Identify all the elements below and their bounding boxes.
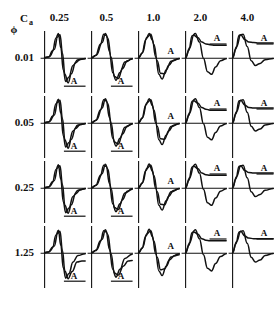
column-header-2: 1.0 (146, 11, 160, 23)
annotation-label-A: A (118, 76, 125, 86)
annotation-label-A: A (214, 98, 221, 108)
row-variable-label: ϕ (11, 23, 18, 35)
panel-r1-c0: A (41, 96, 86, 158)
curve-primary (139, 164, 180, 210)
annotation-label-A: A (168, 241, 175, 251)
annotation-label-A: A (214, 228, 221, 238)
panel-r2-c4: A (229, 161, 274, 223)
row-label-0: 0.01 (15, 51, 34, 63)
curve-primary (139, 229, 180, 275)
column-header-0: 0.25 (50, 11, 70, 23)
panel-r1-c4: A (229, 96, 274, 158)
col-variable-subscript: a (29, 18, 33, 27)
annotation-label-A: A (214, 163, 221, 173)
panel-r3-c0: A (41, 226, 86, 288)
panel-r0-c0: A (41, 31, 86, 93)
panel-r3-c1: A (88, 226, 133, 288)
curve-primary (139, 34, 180, 80)
column-header-1: 0.5 (99, 11, 113, 23)
annotation-label-A: A (214, 33, 221, 43)
curve-A (45, 166, 86, 213)
annotation-label-A: A (71, 141, 78, 151)
annotation-label-A: A (261, 163, 268, 173)
row-label-1: 0.05 (15, 116, 35, 128)
panel-r1-c3: A (182, 96, 227, 158)
waveform-grid-figure: Caϕ0.250.51.02.04.00.010.050.251.25AAAAA… (0, 0, 277, 326)
panel-r1-c2: A (135, 96, 180, 158)
figure-svg: Caϕ0.250.51.02.04.00.010.050.251.25AAAAA… (0, 0, 277, 326)
panel-r0-c2: A (135, 31, 180, 93)
annotation-label-A: A (261, 228, 268, 238)
annotation-label-A: A (168, 111, 175, 121)
row-label-3: 1.25 (15, 246, 35, 258)
annotation-label-A: A (118, 271, 125, 281)
panel-r2-c2: A (135, 161, 180, 223)
curve-primary (139, 99, 180, 145)
annotation-label-A: A (71, 271, 78, 281)
panel-r3-c3: A (182, 226, 227, 288)
column-header-4: 4.0 (240, 11, 254, 23)
annotation-label-A: A (168, 46, 175, 56)
panel-r3-c4: A (229, 226, 274, 288)
annotation-label-A: A (168, 176, 175, 186)
panel-r2-c0: A (41, 161, 86, 223)
panel-r3-c2: A (135, 226, 180, 288)
annotation-label-A: A (261, 98, 268, 108)
panel-r2-c3: A (182, 161, 227, 223)
column-header-3: 2.0 (193, 11, 207, 23)
annotation-label-A: A (118, 141, 125, 151)
col-variable-label: C (20, 12, 28, 24)
annotation-label-A: A (71, 206, 78, 216)
annotation-label-A: A (118, 206, 125, 216)
row-label-2: 0.25 (15, 181, 35, 193)
panel-r2-c1: A (88, 161, 133, 223)
panel-r0-c3: A (182, 31, 227, 93)
panel-r0-c1: A (88, 31, 133, 93)
panel-r0-c4: A (229, 31, 274, 93)
annotation-label-A: A (261, 33, 268, 43)
panel-r1-c1: A (88, 96, 133, 158)
annotation-label-A: A (71, 76, 78, 86)
